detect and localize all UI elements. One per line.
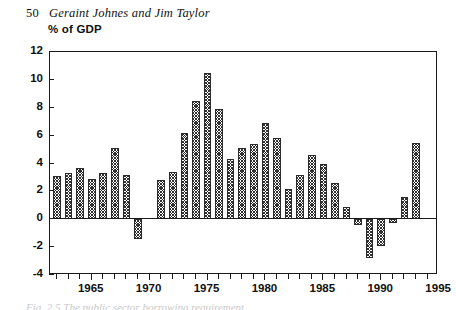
x-axis-tick (392, 274, 393, 279)
y-axis-tick-label: -2 (0, 240, 43, 252)
x-axis-tick (207, 274, 208, 280)
x-axis-tick-label: 1975 (194, 282, 220, 294)
y-axis-tick (49, 163, 54, 164)
x-axis-tick (125, 274, 126, 279)
bar (53, 176, 61, 219)
bar (262, 123, 270, 219)
x-axis-tick-label: 1995 (425, 282, 451, 294)
bar (401, 197, 409, 219)
bar (123, 175, 131, 220)
x-axis-tick (253, 274, 254, 279)
y-axis-tick (49, 79, 54, 80)
bar (215, 109, 223, 219)
plot-frame (49, 51, 437, 274)
x-axis-tick-label: 1980 (252, 282, 278, 294)
y-axis-tick-label: 10 (0, 73, 43, 85)
bars-layer (50, 52, 436, 273)
y-axis-tick (49, 135, 54, 136)
bar (389, 219, 397, 223)
x-axis-tick (322, 274, 323, 280)
bar (134, 219, 142, 239)
bar (204, 73, 212, 219)
bar (157, 180, 165, 219)
bar (169, 172, 177, 219)
y-axis-tick-label: 4 (0, 157, 43, 169)
bar (181, 133, 189, 219)
x-axis-tick (183, 274, 184, 279)
bar (308, 155, 316, 219)
x-axis-tick (172, 274, 173, 279)
x-axis-tick (403, 274, 404, 279)
bar (111, 148, 119, 219)
x-axis-tick (299, 274, 300, 279)
bar (65, 173, 73, 219)
bar (354, 219, 362, 225)
x-axis-tick (427, 274, 428, 279)
x-axis-tick (311, 274, 312, 279)
bar (99, 173, 107, 219)
y-axis-tick-label: 0 (0, 212, 43, 224)
x-axis-tick (276, 274, 277, 279)
x-axis-tick (137, 274, 138, 279)
y-axis-label: % of GDP (48, 23, 102, 35)
x-axis-tick (56, 274, 57, 279)
y-axis-tick (49, 218, 54, 219)
y-axis-tick-label: -4 (0, 268, 43, 280)
x-axis-tick (102, 274, 103, 279)
figure-psbr-chart: % of GDP 121086420-2-4 19651970197519801… (0, 0, 456, 310)
x-axis-tick-label: 1965 (78, 282, 104, 294)
x-axis-tick (288, 274, 289, 279)
y-axis-tick (49, 107, 54, 108)
bar (296, 175, 304, 220)
bar (227, 159, 235, 219)
y-axis-tick-label: 6 (0, 129, 43, 141)
x-axis-tick (160, 274, 161, 279)
x-axis-tick (415, 274, 416, 279)
y-axis-tick (49, 274, 54, 275)
y-axis-tick-label: 2 (0, 184, 43, 196)
x-axis-tick (218, 274, 219, 279)
x-axis-tick (334, 274, 335, 279)
bar (331, 183, 339, 219)
bar (412, 143, 420, 220)
x-axis-tick (91, 274, 92, 280)
bar (366, 219, 374, 258)
x-axis-tick (369, 274, 370, 279)
bar (377, 219, 385, 245)
x-axis-tick (68, 274, 69, 279)
y-axis-tick (49, 190, 54, 191)
y-axis-tick (49, 246, 54, 247)
x-axis-tick (380, 274, 381, 280)
zero-baseline (49, 218, 437, 219)
bar (320, 164, 328, 220)
x-axis-tick (357, 274, 358, 279)
x-axis-tick (230, 274, 231, 279)
x-axis-tick-label: 1985 (310, 282, 336, 294)
y-axis-tick-label: 8 (0, 101, 43, 113)
x-axis-tick-label: 1990 (367, 282, 393, 294)
y-axis-tick-label: 12 (0, 45, 43, 57)
bar (273, 138, 281, 219)
bar (76, 168, 84, 220)
x-axis-tick (195, 274, 196, 279)
bar (192, 101, 200, 219)
x-axis-tick (241, 274, 242, 279)
x-axis-tick (149, 274, 150, 280)
x-axis-tick (114, 274, 115, 279)
bar (250, 144, 258, 219)
bar (238, 148, 246, 219)
x-axis-tick (79, 274, 80, 279)
bar (88, 179, 96, 219)
figure-caption: Fig. 2.5 The public sector borrowing req… (26, 301, 244, 310)
x-axis-tick-label: 1970 (136, 282, 162, 294)
x-axis-tick (264, 274, 265, 280)
bar (285, 189, 293, 220)
y-axis-tick (49, 51, 54, 52)
x-axis-tick (346, 274, 347, 279)
